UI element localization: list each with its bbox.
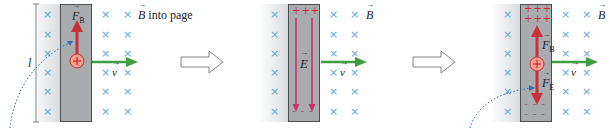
b-field-cross-icon: ×	[329, 9, 338, 20]
b-field-cross-icon: ×	[350, 106, 359, 117]
magnetic-force-label: FB	[72, 9, 85, 25]
b-field-cross-icon: ×	[329, 86, 338, 97]
b-field-cross-icon: ×	[270, 29, 279, 40]
b-field-cross-icon: ×	[123, 106, 132, 117]
b-field-cross-icon: ×	[101, 9, 110, 20]
b-field-cross-icon: ×	[350, 86, 359, 97]
b-field-cross-icon: ×	[561, 67, 570, 78]
magnetic-force-label: FB	[542, 38, 555, 54]
velocity-label: v	[112, 66, 117, 78]
b-field-cross-icon: ×	[270, 67, 279, 78]
b-field-cross-icon: ×	[582, 9, 591, 20]
b-field-cross-icon: ×	[101, 106, 110, 117]
panel-3: × × × × × × × × × × × × × × × × × × +++ …	[460, 0, 610, 131]
b-field-cross-icon: ×	[329, 106, 338, 117]
b-field-label: B into page	[138, 8, 193, 23]
b-field-cross-icon: ×	[350, 29, 359, 40]
b-field-cross-icon: ×	[561, 106, 570, 117]
b-field-label: B	[598, 8, 605, 23]
b-field-cross-icon: ×	[101, 67, 110, 78]
transition-arrow-icon	[413, 51, 457, 73]
positive-charge-icon	[69, 53, 85, 69]
panel-1: l × × × × × × × × × × × × × × × × × × FB…	[0, 0, 160, 131]
b-field-cross-icon: ×	[270, 9, 279, 20]
velocity-label: v	[571, 66, 576, 78]
b-field-cross-icon: ×	[101, 29, 110, 40]
b-field-cross-icon: ×	[582, 86, 591, 97]
b-field-cross-icon: ×	[101, 86, 110, 97]
b-field-cross-icon: ×	[350, 67, 359, 78]
transition-arrow-icon	[181, 51, 225, 73]
magnetic-force-arrow	[67, 20, 87, 80]
b-field-cross-icon: ×	[350, 9, 359, 20]
b-field-cross-icon: ×	[582, 67, 591, 78]
b-field-cross-icon: ×	[582, 106, 591, 117]
b-field-cross-icon: ×	[270, 86, 279, 97]
b-field-cross-icon: ×	[329, 67, 338, 78]
b-field-cross-icon: ×	[123, 29, 132, 40]
b-field-cross-icon: ×	[123, 9, 132, 20]
panel-2: × × × × × × × × × × × × × × × × × × +++ …	[230, 0, 380, 131]
b-field-cross-icon: ×	[270, 106, 279, 117]
b-field-cross-icon: ×	[561, 86, 570, 97]
b-field-cross-icon: ×	[582, 29, 591, 40]
b-field-cross-icon: ×	[123, 67, 132, 78]
electric-force-label: FE	[542, 76, 554, 92]
b-field-cross-icon: ×	[561, 29, 570, 40]
b-field-cross-icon: ×	[123, 86, 132, 97]
b-field-cross-icon: ×	[329, 29, 338, 40]
b-field-cross-icon: ×	[270, 48, 279, 59]
velocity-label: v	[340, 66, 345, 78]
b-field-label: B	[366, 8, 373, 23]
b-field-cross-icon: ×	[561, 9, 570, 20]
electric-field-label: E	[300, 56, 308, 72]
